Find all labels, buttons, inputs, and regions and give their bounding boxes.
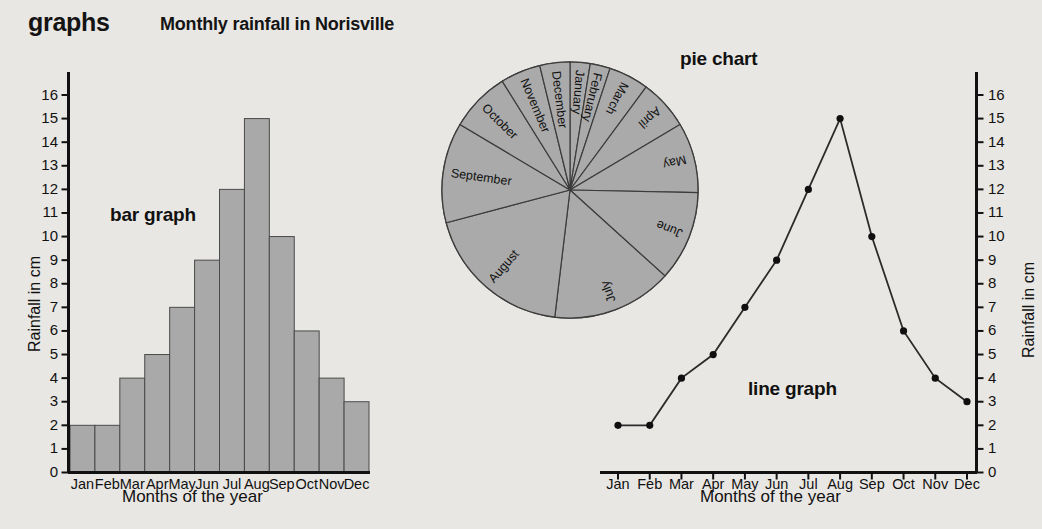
line-graph-y-tick-label: 13 — [988, 156, 1005, 173]
data-point-marker — [963, 398, 970, 405]
data-point-marker — [836, 115, 843, 122]
bar — [220, 189, 245, 472]
bar — [269, 237, 294, 473]
data-point-marker — [805, 186, 812, 193]
data-point-marker — [646, 422, 653, 429]
bar-graph-y-tick-label: 0 — [22, 463, 58, 480]
bar-graph-y-tick-label: 3 — [22, 392, 58, 409]
data-point-marker — [932, 375, 939, 382]
line-graph-y-tick-label: 15 — [988, 109, 1005, 126]
bar — [344, 402, 369, 473]
line-graph-y-tick-label: 4 — [988, 369, 996, 386]
bar — [170, 307, 195, 472]
line-graph-x-axis-title: Months of the year — [700, 487, 841, 507]
line-graph-y-tick-label: 5 — [988, 345, 996, 362]
bar-graph-y-tick-label: 13 — [22, 156, 58, 173]
bar — [319, 378, 344, 472]
bar-graph-y-tick-label: 15 — [22, 109, 58, 126]
pie-chart-callout: pie chart — [680, 48, 757, 70]
bar-graph-x-tick-label: Dec — [338, 476, 375, 492]
bar-graph-y-tick-label: 10 — [22, 227, 58, 244]
data-point-marker — [741, 304, 748, 311]
line-graph-y-tick-label: 0 — [988, 463, 996, 480]
line-graph-y-axis-title: Rainfall in cm — [1020, 262, 1038, 358]
line-graph-y-tick-label: 2 — [988, 416, 996, 433]
line-graph-y-tick-label: 6 — [988, 321, 996, 338]
data-point-marker — [773, 257, 780, 264]
bar — [120, 378, 145, 472]
bar — [195, 260, 220, 472]
data-point-marker — [678, 375, 685, 382]
line-graph-x-tick-label: Dec — [947, 476, 987, 492]
bar — [145, 355, 170, 473]
bar-graph-y-tick-label: 1 — [22, 439, 58, 456]
line-graph-y-tick-label: 11 — [988, 203, 1004, 220]
data-point-marker — [710, 351, 717, 358]
line-graph-y-tick-label: 3 — [988, 392, 996, 409]
line-graph-y-tick-label: 7 — [988, 298, 996, 315]
bar-graph-y-tick-label: 16 — [22, 86, 58, 103]
bar — [244, 119, 269, 473]
data-point-marker — [900, 327, 907, 334]
graphs-poster: graphs Monthly rainfall in Norisville 01… — [0, 0, 1042, 529]
line-graph-y-tick-label: 14 — [988, 133, 1005, 150]
data-point-marker — [614, 422, 621, 429]
line-graph-y-tick-label: 8 — [988, 274, 996, 291]
line-graph-callout: line graph — [748, 378, 837, 400]
bar-graph-y-axis-title: Rainfall in cm — [26, 256, 44, 352]
bar — [294, 331, 319, 473]
bar — [70, 425, 95, 472]
bar-graph — [70, 119, 369, 473]
bar-graph-x-axis-title: Months of the year — [122, 487, 263, 507]
line-graph-y-tick-label: 1 — [988, 439, 996, 456]
bar-graph-y-tick-label: 14 — [22, 133, 58, 150]
data-point-marker — [868, 233, 875, 240]
bar-graph-y-tick-label: 4 — [22, 369, 58, 386]
bar-graph-y-tick-label: 12 — [22, 180, 58, 197]
bar — [95, 425, 120, 472]
line-graph-y-tick-label: 10 — [988, 227, 1005, 244]
line-graph-y-tick-label: 9 — [988, 251, 996, 268]
bar-graph-callout: bar graph — [110, 204, 196, 226]
line-graph-y-tick-label: 16 — [988, 86, 1005, 103]
line-graph-y-tick-label: 12 — [988, 180, 1005, 197]
bar-graph-y-tick-label: 2 — [22, 416, 58, 433]
bar-graph-y-tick-label: 11 — [22, 203, 58, 220]
